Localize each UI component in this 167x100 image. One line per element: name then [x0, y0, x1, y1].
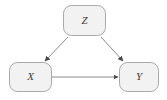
dag-canvas: Z X Y: [0, 0, 167, 100]
node-x-label: X: [26, 70, 35, 82]
node-y[interactable]: Y: [120, 63, 159, 92]
node-z-label: Z: [81, 14, 88, 26]
node-x[interactable]: X: [10, 63, 52, 92]
edge-z-to-y: [101, 37, 123, 61]
causal-dag-diagram: Z X Y: [0, 0, 167, 100]
edge-z-to-x: [45, 37, 68, 61]
node-z[interactable]: Z: [64, 6, 106, 36]
